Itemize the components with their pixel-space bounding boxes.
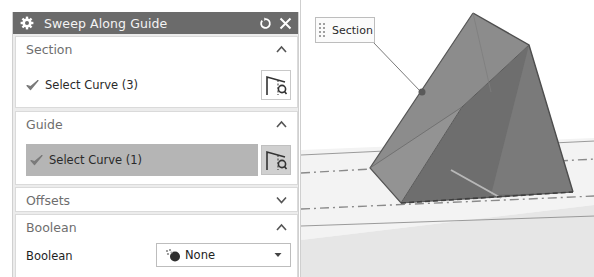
chevron-down-icon[interactable] bbox=[275, 194, 287, 206]
guide-select-curve-row[interactable]: Select Curve (1) bbox=[26, 144, 258, 176]
section-curve-select-button[interactable] bbox=[261, 70, 291, 100]
dialog-title-bar[interactable]: Sweep Along Guide bbox=[13, 12, 298, 34]
sweep-along-guide-dialog: Sweep Along Guide Section bbox=[12, 12, 299, 277]
boolean-row: Boolean None bbox=[16, 241, 297, 271]
section-callout-label[interactable]: Section bbox=[315, 17, 375, 43]
section-select-curve-row[interactable]: Select Curve (3) bbox=[16, 69, 256, 101]
offsets-group-header[interactable]: Offsets bbox=[16, 188, 297, 212]
offsets-group-title: Offsets bbox=[26, 193, 70, 208]
close-icon[interactable] bbox=[278, 16, 292, 30]
callout-text: Section bbox=[332, 24, 373, 37]
guide-select-curve-label: Select Curve (1) bbox=[49, 153, 142, 167]
section-group: Section Select Curve (3) bbox=[15, 36, 298, 108]
offsets-group: Offsets bbox=[15, 187, 298, 212]
section-group-header[interactable]: Section bbox=[16, 37, 297, 61]
dialog-title: Sweep Along Guide bbox=[44, 16, 167, 31]
graphics-viewport[interactable]: Section bbox=[300, 0, 594, 277]
section-select-curve-label: Select Curve (3) bbox=[45, 78, 138, 92]
reset-icon[interactable] bbox=[258, 16, 272, 30]
checkmark-icon bbox=[30, 154, 43, 166]
boolean-group-title: Boolean bbox=[26, 220, 77, 235]
guide-group-header[interactable]: Guide bbox=[16, 112, 297, 136]
dropdown-arrow-icon bbox=[274, 252, 282, 258]
chevron-up-icon[interactable] bbox=[275, 118, 287, 130]
boolean-none-icon bbox=[164, 248, 182, 262]
chevron-up-icon[interactable] bbox=[275, 43, 287, 55]
boolean-dropdown[interactable]: None bbox=[156, 243, 291, 267]
boolean-group-header[interactable]: Boolean bbox=[16, 215, 297, 239]
curve-select-icon bbox=[264, 148, 288, 172]
boolean-dropdown-value: None bbox=[185, 248, 215, 262]
gear-icon bbox=[19, 15, 35, 31]
guide-group: Guide Select Curve (1) bbox=[15, 111, 298, 185]
guide-curve-select-button[interactable] bbox=[261, 145, 291, 175]
checkmark-icon bbox=[26, 79, 39, 91]
guide-group-title: Guide bbox=[26, 117, 63, 132]
chevron-up-icon[interactable] bbox=[275, 221, 287, 233]
curve-select-icon bbox=[264, 73, 288, 97]
boolean-field-label: Boolean bbox=[26, 249, 73, 263]
drag-grip-icon[interactable] bbox=[319, 22, 327, 38]
boolean-group: Boolean Boolean None bbox=[15, 214, 298, 277]
section-group-title: Section bbox=[26, 42, 72, 57]
